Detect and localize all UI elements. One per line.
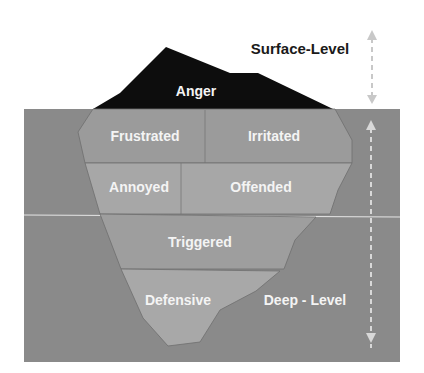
deep-level-label: Deep - Level: [264, 292, 346, 308]
arrow-down-icon: [367, 95, 377, 104]
tip-label-anger: Anger: [176, 83, 217, 99]
layer-label-annoyed: Annoyed: [109, 179, 169, 195]
layer-label-irritated: Irritated: [248, 128, 300, 144]
iceberg-diagram: Surface-Level Anger Frustrated Irritated…: [0, 0, 424, 373]
layer-label-offended: Offended: [230, 179, 291, 195]
arrow-up-icon: [367, 30, 377, 40]
layer-label-frustrated: Frustrated: [110, 128, 179, 144]
layer-label-triggered: Triggered: [168, 234, 232, 250]
surface-level-label: Surface-Level: [251, 40, 349, 57]
layer-label-defensive: Defensive: [145, 292, 211, 308]
